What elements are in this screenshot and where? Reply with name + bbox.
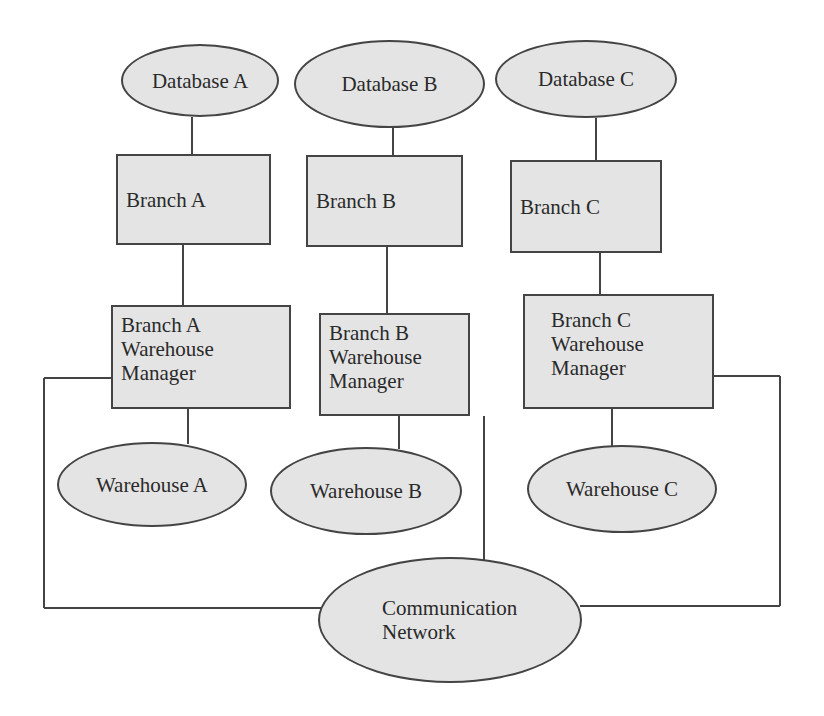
branch-b-node: Branch B [306,155,463,247]
warehouse-c-node: Warehouse C [527,445,717,533]
warehouse-manager-c-label: Branch C Warehouse Manager [551,308,644,380]
warehouse-c-label: Warehouse C [566,477,678,501]
branch-c-node: Branch C [510,160,662,253]
warehouse-manager-c-node: Branch C Warehouse Manager [523,294,714,409]
warehouse-manager-b-label: Branch B Warehouse Manager [329,321,422,393]
database-b-node: Database B [294,40,485,128]
communication-network-label: Communication Network [382,596,517,644]
database-b-label: Database B [341,72,437,96]
warehouse-a-label: Warehouse A [96,473,208,497]
warehouse-b-label: Warehouse B [310,479,422,503]
branch-a-label: Branch A [126,188,206,212]
branch-b-label: Branch B [316,189,396,213]
warehouse-manager-b-node: Branch B Warehouse Manager [319,313,470,416]
database-a-node: Database A [121,44,279,117]
communication-network-node: Communication Network [318,557,582,683]
warehouse-a-node: Warehouse A [57,442,247,527]
branch-a-node: Branch A [116,154,271,245]
database-c-label: Database C [538,67,634,91]
distributed-warehouse-diagram: Database A Database B Database C Branch … [0,0,824,716]
database-c-node: Database C [495,40,677,118]
warehouse-manager-a-node: Branch A Warehouse Manager [111,305,291,409]
warehouse-b-node: Warehouse B [270,447,462,535]
branch-c-label: Branch C [520,195,600,219]
warehouse-manager-a-label: Branch A Warehouse Manager [121,313,214,385]
database-a-label: Database A [152,69,248,93]
